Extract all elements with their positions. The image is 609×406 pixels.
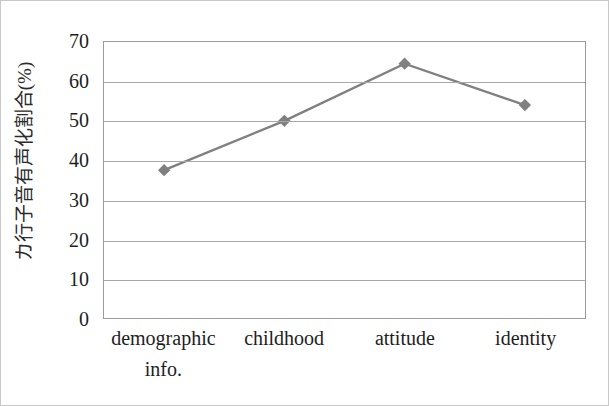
x-axis-tick-labels: demographicinfo.childhoodattitudeidentit…: [103, 323, 586, 403]
y-axis-tick-label: 70: [69, 30, 89, 53]
x-axis-tick-label-line: attitude: [375, 327, 435, 349]
y-axis-tick-label: 60: [69, 69, 89, 92]
data-point-marker: [398, 58, 410, 70]
y-axis-title: カ行子音有声化割合(%): [1, 1, 45, 321]
x-axis-tick-label-line: childhood: [244, 327, 324, 349]
gridline: [104, 201, 585, 202]
gridline: [104, 161, 585, 162]
y-axis-tick-label: 40: [69, 149, 89, 172]
x-axis-tick-label-line: identity: [495, 327, 556, 349]
x-axis-tick-label-line: info.: [111, 354, 215, 385]
x-axis-tick-label: identity: [495, 323, 556, 354]
series-line: [164, 64, 525, 170]
plot-area: [103, 41, 586, 319]
x-axis-tick-label: childhood: [244, 323, 324, 354]
y-axis-tick-label: 10: [69, 268, 89, 291]
x-axis-tick-label: attitude: [375, 323, 435, 354]
data-point-marker: [158, 164, 170, 176]
y-axis-tick-label: 50: [69, 109, 89, 132]
y-axis-tick-labels: 010203040506070: [47, 41, 97, 319]
chart-figure: カ行子音有声化割合(%) 010203040506070 demographic…: [0, 0, 609, 406]
gridline: [104, 82, 585, 83]
line-series: [104, 42, 585, 318]
y-axis-title-text: カ行子音有声化割合(%): [10, 61, 37, 260]
y-axis-tick-label: 20: [69, 228, 89, 251]
y-axis-tick-label: 30: [69, 188, 89, 211]
gridline: [104, 280, 585, 281]
gridline: [104, 241, 585, 242]
data-point-marker: [519, 99, 531, 111]
y-axis-tick-label: 0: [79, 308, 89, 331]
gridline: [104, 121, 585, 122]
x-axis-tick-label: demographicinfo.: [111, 323, 215, 385]
x-axis-tick-label-line: demographic: [111, 327, 215, 349]
